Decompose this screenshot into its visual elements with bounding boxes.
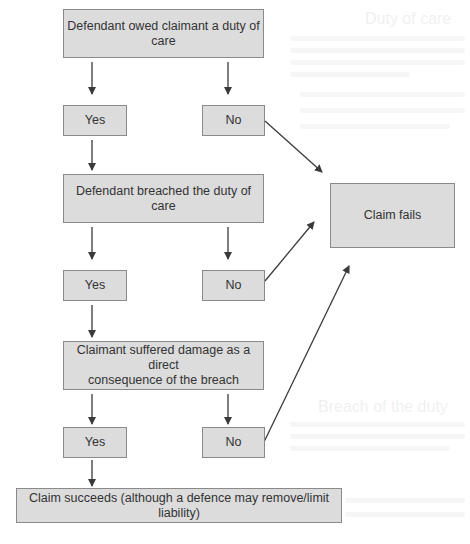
bleed-line bbox=[290, 36, 465, 41]
bleed-line bbox=[345, 512, 465, 517]
bleed-heading-breach: Breach of the duty bbox=[318, 398, 448, 416]
node-label: Claim succeeds (although a defence may r… bbox=[17, 491, 341, 521]
node-label: No bbox=[226, 278, 242, 293]
node-label: Defendant owed claimant a duty of care bbox=[64, 19, 263, 49]
arrow-no-to-fails-3 bbox=[264, 266, 349, 442]
bleed-line bbox=[300, 108, 465, 113]
node-breach-yes: Yes bbox=[63, 270, 127, 301]
node-label: Yes bbox=[85, 278, 105, 293]
node-label-line2: consequence of the breach bbox=[88, 373, 239, 388]
bleed-line bbox=[300, 124, 450, 129]
node-damage: Claimant suffered damage as a direct con… bbox=[63, 341, 264, 390]
node-label: No bbox=[226, 113, 242, 128]
node-label: Yes bbox=[85, 113, 105, 128]
bleed-line bbox=[300, 92, 465, 97]
node-label: Defendant breached the duty of care bbox=[64, 184, 263, 214]
arrow-no-to-fails-2 bbox=[265, 222, 314, 281]
node-claim-succeeds: Claim succeeds (although a defence may r… bbox=[16, 488, 342, 523]
node-claim-fails: Claim fails bbox=[330, 183, 455, 248]
node-label: Yes bbox=[85, 435, 105, 450]
node-damage-no: No bbox=[202, 427, 265, 458]
node-breach-no: No bbox=[202, 270, 265, 301]
node-duty-yes: Yes bbox=[63, 105, 127, 136]
bleed-line bbox=[290, 422, 465, 427]
node-duty-no: No bbox=[202, 105, 265, 136]
node-label: Claim fails bbox=[364, 208, 422, 223]
node-label-line1: Claimant suffered damage as a direct bbox=[64, 343, 263, 373]
bleed-line bbox=[345, 498, 465, 503]
bleed-heading-duty: Duty of care bbox=[365, 10, 451, 28]
bleed-line bbox=[290, 72, 410, 77]
node-label: No bbox=[226, 435, 242, 450]
node-duty-of-care: Defendant owed claimant a duty of care bbox=[63, 9, 264, 58]
bleed-line bbox=[290, 446, 450, 451]
bleed-line bbox=[290, 60, 465, 65]
node-breach: Defendant breached the duty of care bbox=[63, 174, 264, 223]
bleed-line bbox=[290, 434, 465, 439]
node-damage-yes: Yes bbox=[63, 427, 127, 458]
bleed-line bbox=[290, 48, 465, 53]
